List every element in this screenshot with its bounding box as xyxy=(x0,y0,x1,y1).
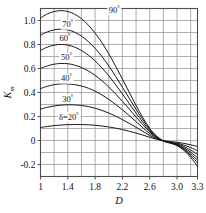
y-axis: 1.00.80.60.40.20-0.2 xyxy=(20,16,40,170)
x-tick-label: 3.3 xyxy=(192,182,204,192)
series-label: δ=20° xyxy=(59,112,79,122)
x-tick-label: 3.0 xyxy=(171,182,183,192)
y-tick-label: 0.4 xyxy=(24,88,36,98)
km-vs-d-line-chart: 90°70°60°50°40°30°δ=20°11.41.82.22.63.03… xyxy=(0,0,206,213)
y-tick-label: 0.2 xyxy=(24,112,36,122)
x-tick-label: 1.4 xyxy=(62,182,74,192)
chart-container: 90°70°60°50°40°30°δ=20°11.41.82.22.63.03… xyxy=(0,0,206,213)
y-axis-title: Km xyxy=(2,86,16,99)
x-tick-label: 1.8 xyxy=(89,182,101,192)
y-tick-label: 0.6 xyxy=(24,64,36,74)
x-axis-title: D xyxy=(114,195,123,206)
x-tick-label: 2.2 xyxy=(116,182,128,192)
y-tick-label: 0 xyxy=(31,136,36,146)
x-tick-label: 2.6 xyxy=(144,182,156,192)
y-tick-label: 1.0 xyxy=(24,16,36,26)
x-axis: 11.41.82.22.63.03.3 xyxy=(38,177,204,192)
y-tick-label: 0.8 xyxy=(24,40,36,50)
y-tick-label: -0.2 xyxy=(20,160,35,170)
x-tick-label: 1 xyxy=(38,182,43,192)
